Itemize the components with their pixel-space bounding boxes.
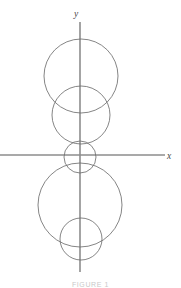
circle-5	[60, 218, 102, 260]
x-axis-label: x	[166, 151, 172, 161]
coordinate-plane-diagram: y x	[0, 0, 181, 288]
y-axis-label: y	[73, 9, 79, 19]
figure-container: y x FIGURE 1	[0, 0, 181, 288]
figure-caption: FIGURE 1	[0, 281, 181, 288]
circle-2	[52, 86, 110, 144]
